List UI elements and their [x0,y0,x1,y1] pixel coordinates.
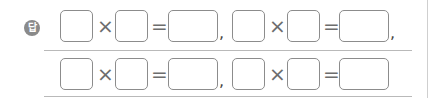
equals-sign: = [323,13,340,39]
factor-input-box[interactable] [287,58,320,90]
factor-input-box[interactable] [60,58,93,90]
factor-input-box[interactable] [287,10,320,42]
factor-input-box[interactable] [115,58,148,90]
factor-input-box[interactable] [232,58,265,90]
comma: , [390,20,395,46]
equals-sign: = [151,61,168,87]
right-border [427,0,428,98]
times-sign: × [97,13,114,39]
result-input-box[interactable] [168,58,218,90]
answer-badge-icon: 답 [24,20,40,36]
comma: , [219,68,224,94]
equals-sign: = [323,61,340,87]
bottom-line [44,96,412,97]
result-input-box[interactable] [339,10,389,42]
result-input-box[interactable] [339,58,389,90]
divider-line [44,50,412,51]
times-sign: × [97,61,114,87]
equals-sign: = [151,13,168,39]
result-input-box[interactable] [168,10,218,42]
comma: , [219,20,224,46]
factor-input-box[interactable] [60,10,93,42]
times-sign: × [269,61,286,87]
factor-input-box[interactable] [232,10,265,42]
factor-input-box[interactable] [115,10,148,42]
times-sign: × [269,13,286,39]
